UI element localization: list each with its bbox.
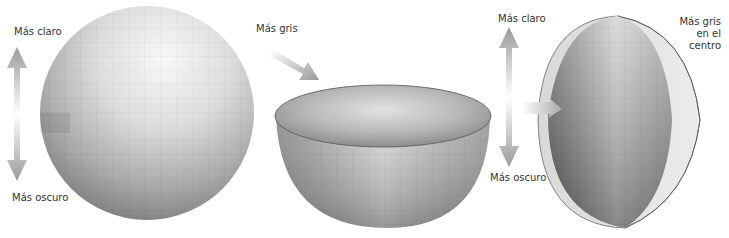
more-gray-arrow bbox=[270, 50, 319, 80]
diagram-canvas bbox=[0, 0, 729, 238]
light-dark-double-arrow-left bbox=[7, 47, 27, 181]
label-more-gray: Más gris bbox=[256, 23, 298, 35]
hemisphere-vertical-cut bbox=[538, 16, 700, 228]
full-sphere bbox=[40, 6, 254, 220]
label-line-1: Más gris bbox=[679, 16, 721, 28]
label-lighter-left: Más claro bbox=[14, 26, 62, 38]
label-more-gray-center: Más gris en el centro bbox=[679, 16, 721, 52]
label-lighter-right: Más claro bbox=[498, 13, 546, 25]
light-dark-double-arrow-right bbox=[499, 27, 519, 167]
label-line-3: centro bbox=[679, 40, 721, 52]
label-darker-left: Más oscuro bbox=[12, 192, 68, 204]
label-darker-right: Más oscuro bbox=[490, 172, 546, 184]
hemisphere-horizontal-cut bbox=[275, 85, 491, 228]
label-line-2: en el bbox=[679, 28, 721, 40]
